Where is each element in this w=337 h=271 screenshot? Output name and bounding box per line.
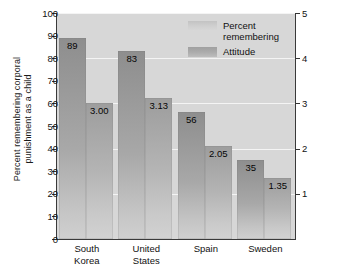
- x-axis-line: [56, 239, 296, 240]
- y-axis-left-tick-label: 60: [34, 99, 58, 108]
- y-axis-left-tick-label: 100: [34, 9, 58, 18]
- bar-percent-remembering: 56: [178, 112, 205, 239]
- gridline: [57, 13, 295, 14]
- x-axis-category-label-line: Korea: [57, 255, 117, 267]
- legend-label-percent-remembering-line1: Percent: [223, 20, 279, 31]
- y-axis-left-title-line2: punishment as a child: [23, 24, 34, 214]
- plot-area: 893.00833.13562.05351.35 Percent remembe…: [57, 13, 295, 239]
- y-axis-left-tick-label: 30: [34, 167, 58, 176]
- x-axis-category-label-line: Sweden: [235, 243, 295, 255]
- bar-value-label: 2.05: [205, 148, 232, 159]
- y-axis-right-tick-label: 5: [302, 9, 322, 18]
- bar-value-label: 56: [178, 114, 205, 125]
- y-axis-right-tick-mark: [295, 194, 300, 195]
- bar-value-label: 3.00: [86, 105, 113, 116]
- y-axis-right-tick-label: 4: [302, 54, 322, 63]
- legend: Percent remembering Attitude: [188, 20, 292, 61]
- legend-label-attitude: Attitude: [223, 46, 255, 57]
- bar-attitude: 2.05: [205, 146, 232, 239]
- bar-value-label: 1.35: [264, 180, 291, 191]
- bar-percent-remembering: 89: [59, 38, 86, 239]
- x-axis-category-label-line: Spain: [176, 243, 236, 255]
- y-axis-left-tick-label: 10: [34, 212, 58, 221]
- legend-swatch-attitude: [188, 47, 217, 57]
- y-axis-left-tick-label: 90: [34, 31, 58, 40]
- bar-attitude: 3.13: [145, 98, 172, 240]
- y-axis-left-title-line1: Percent remembering corporal: [12, 24, 23, 214]
- y-axis-left-tick-label: 0: [34, 235, 58, 244]
- x-axis-category-label-line: South: [57, 243, 117, 255]
- bar-percent-remembering: 35: [237, 160, 264, 239]
- y-axis-left-tick-label: 70: [34, 76, 58, 85]
- y-axis-left-title: Percent remembering corporal punishment …: [12, 24, 34, 214]
- x-axis-category-label: Spain: [176, 243, 236, 255]
- x-axis-category-label-line: United: [116, 243, 176, 255]
- y-axis-left-tick-label: 80: [34, 54, 58, 63]
- bar-attitude: 3.00: [86, 103, 113, 239]
- y-axis-right-tick-mark: [295, 149, 300, 150]
- y-axis-right-line: [295, 13, 296, 240]
- legend-item-percent-remembering: Percent remembering: [188, 20, 292, 42]
- bar-attitude: 1.35: [264, 178, 291, 239]
- y-axis-right-tick-label: 1: [302, 189, 322, 198]
- bar-chart: Percent remembering corporal punishment …: [0, 0, 337, 271]
- legend-label-percent-remembering: Percent remembering: [223, 20, 279, 42]
- bar-value-label: 83: [118, 53, 145, 64]
- y-axis-left-tick-label: 40: [34, 144, 58, 153]
- bar-value-label: 89: [59, 40, 86, 51]
- y-axis-right-tick-label: 3: [302, 99, 322, 108]
- y-axis-right-tick-mark: [295, 58, 300, 59]
- bar-percent-remembering: 83: [118, 51, 145, 239]
- y-axis-left-tick-label: 20: [34, 189, 58, 198]
- bar-value-label: 35: [237, 162, 264, 173]
- y-axis-right-tick-label: 2: [302, 144, 322, 153]
- y-axis-left-tick-label: 50: [34, 122, 58, 131]
- y-axis-right-tick-mark: [295, 13, 300, 14]
- x-axis-category-label: Sweden: [235, 243, 295, 255]
- legend-label-percent-remembering-line2: remembering: [223, 31, 279, 42]
- legend-swatch-percent-remembering: [188, 21, 217, 31]
- y-axis-right-tick-mark: [295, 103, 300, 104]
- x-axis-category-label-line: States: [116, 255, 176, 267]
- x-axis-category-label: UnitedStates: [116, 243, 176, 266]
- x-axis-category-label: SouthKorea: [57, 243, 117, 266]
- legend-label-attitude-line1: Attitude: [223, 46, 255, 57]
- bar-value-label: 3.13: [145, 100, 172, 111]
- legend-item-attitude: Attitude: [188, 46, 292, 57]
